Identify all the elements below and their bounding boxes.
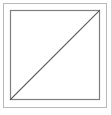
square-with-diagonal-figure bbox=[0, 0, 111, 115]
background-plate bbox=[0, 0, 111, 115]
figure-canvas bbox=[0, 0, 111, 115]
